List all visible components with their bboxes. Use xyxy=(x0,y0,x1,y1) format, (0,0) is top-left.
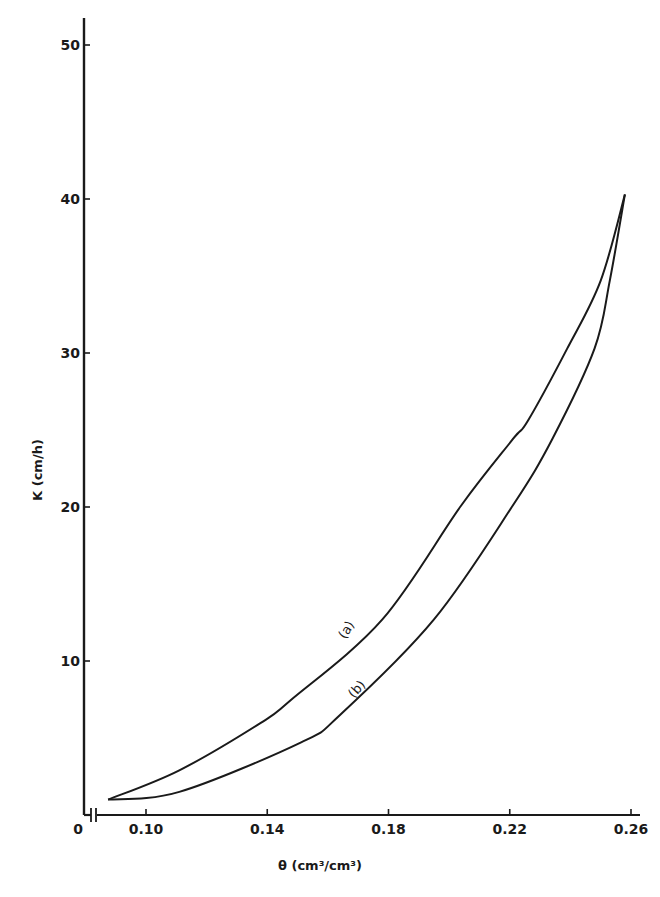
y-ticks: 1020304050 xyxy=(61,37,90,669)
curve-a xyxy=(108,194,625,799)
x-axis-title-text: θ (cm³/cm³) xyxy=(278,858,362,873)
axes xyxy=(84,18,640,822)
curves xyxy=(108,194,625,799)
x-axis-title: θ (cm³/cm³) xyxy=(278,858,362,873)
curve-label-b: (b) xyxy=(345,677,368,701)
y-tick-label: 30 xyxy=(61,345,81,361)
chart-canvas: 0.100.140.180.220.26 1020304050 0 θ (cm³… xyxy=(0,0,660,897)
x-tick-label: 0.18 xyxy=(371,821,406,837)
x-tick-label: 0.26 xyxy=(614,821,649,837)
y-tick-label: 40 xyxy=(61,191,81,207)
y-tick-label: 10 xyxy=(61,653,81,669)
curve-b xyxy=(108,194,625,799)
y-tick-label: 20 xyxy=(61,499,81,515)
y-axis-title: K (cm/h) xyxy=(30,439,45,501)
x-tick-label: 0.22 xyxy=(492,821,527,837)
x-ticks: 0.100.140.180.220.26 xyxy=(129,809,649,837)
curve-label-a: (a) xyxy=(335,618,357,641)
y-tick-label: 50 xyxy=(61,37,81,53)
x-tick-label: 0.14 xyxy=(250,821,285,837)
x-tick-label: 0.10 xyxy=(129,821,164,837)
x-origin-label: 0 xyxy=(73,821,83,837)
